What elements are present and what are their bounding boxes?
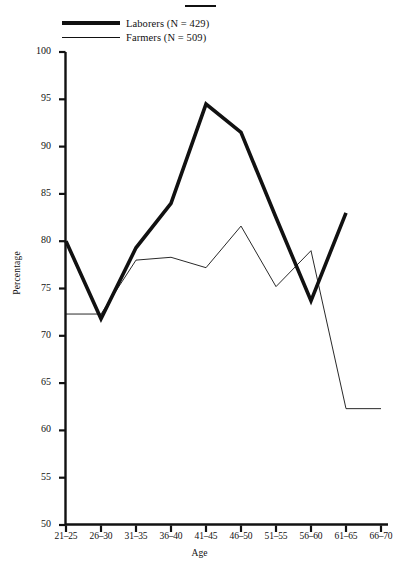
chart-figure: Laborers (N = 429) Farmers (N = 509) 505… (0, 0, 399, 566)
y-tick-label: 75 (21, 282, 51, 293)
series-line-farmers (66, 226, 381, 409)
y-tick-label: 80 (21, 234, 51, 245)
data-series (66, 104, 381, 409)
y-tick-label: 95 (21, 92, 51, 103)
y-axis-title: Percentage (12, 228, 22, 318)
y-tick-label: 90 (21, 140, 51, 151)
x-tick-label: 66–70 (358, 531, 399, 541)
x-axis-title: Age (0, 548, 399, 558)
y-tick-label: 65 (21, 376, 51, 387)
y-tick-label: 100 (21, 45, 51, 56)
y-tick-label: 85 (21, 187, 51, 198)
series-line-laborers (66, 104, 346, 319)
y-tick-label: 55 (21, 471, 51, 482)
axis-ticks (59, 52, 381, 532)
y-tick-label: 70 (21, 329, 51, 340)
y-tick-label: 50 (21, 518, 51, 529)
y-tick-label: 60 (21, 423, 51, 434)
plot-area (0, 0, 399, 566)
